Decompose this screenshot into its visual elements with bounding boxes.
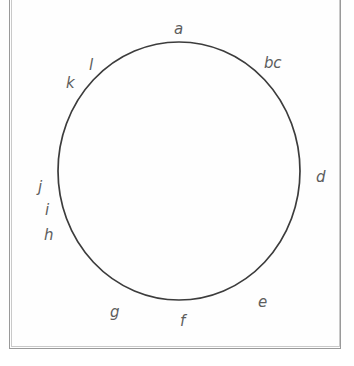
main-circle <box>58 42 300 300</box>
circle-label-d: d <box>316 170 326 185</box>
circle-label-g: g <box>110 305 120 320</box>
circle-label-j: j <box>38 180 42 195</box>
figure-root: a bc d e f g h i j k l <box>0 0 354 366</box>
circle-label-i: i <box>45 203 49 218</box>
circle-label-e: e <box>258 295 267 310</box>
circle-label-bc: bc <box>264 56 281 71</box>
circle-label-a: a <box>174 22 183 37</box>
circle-label-k: k <box>66 76 75 91</box>
circle-label-f: f <box>180 314 185 329</box>
circle-diagram <box>0 0 354 366</box>
circle-label-l: l <box>89 58 93 73</box>
circle-label-h: h <box>44 228 54 243</box>
